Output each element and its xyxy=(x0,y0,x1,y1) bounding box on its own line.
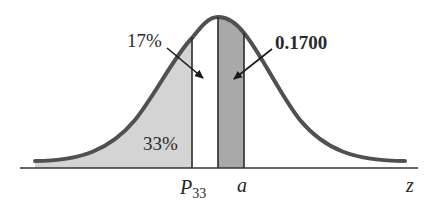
label-z-axis: z xyxy=(406,174,414,197)
label-p33: P33 xyxy=(180,176,206,202)
label-17-percent: 17% xyxy=(127,30,162,52)
normal-curve-svg xyxy=(0,0,424,203)
label-p33-main: P xyxy=(180,176,192,198)
label-p33-sub: 33 xyxy=(192,186,206,201)
normal-curve-diagram: 17% 33% 0.1700 P33 a z xyxy=(0,0,424,203)
label-33-percent: 33% xyxy=(143,133,178,155)
label-a: a xyxy=(237,174,247,197)
label-01700: 0.1700 xyxy=(275,32,327,54)
mean-to-a-region xyxy=(218,17,244,168)
